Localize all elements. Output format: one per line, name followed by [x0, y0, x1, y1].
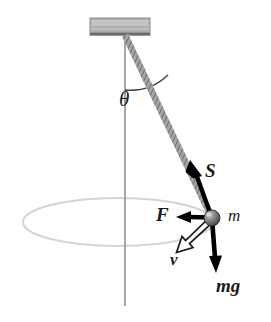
label-tension-S: S	[205, 161, 216, 180]
diagram-canvas	[0, 0, 271, 322]
label-velocity-v: v	[170, 251, 178, 268]
ceiling-support-block	[90, 18, 150, 36]
conical-pendulum-figure: θ S F v m mg	[0, 0, 271, 322]
label-centripetal-force-F: F	[156, 205, 169, 224]
label-angle-theta: θ	[119, 89, 129, 110]
vector-weight-mg	[209, 219, 222, 273]
label-mass-m: m	[228, 207, 240, 224]
pendulum-string	[125, 35, 212, 218]
pendulum-bob	[204, 210, 220, 226]
label-weight-mg: mg	[216, 276, 240, 295]
